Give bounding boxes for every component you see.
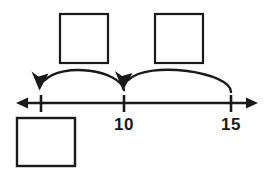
arrow-right-icon <box>246 98 258 109</box>
tick-label-15: 15 <box>221 116 241 133</box>
number-line-figure: 10 15 <box>0 0 272 170</box>
answer-box-bottom-left[interactable] <box>17 118 75 166</box>
arc-right-path <box>129 70 232 92</box>
arc-left-path <box>45 70 125 90</box>
answer-box-top-left[interactable] <box>60 14 108 63</box>
answer-boxes <box>17 14 203 166</box>
number-line-axis <box>16 98 258 109</box>
arc-left-arrowhead-icon <box>32 72 49 91</box>
arrow-left-icon <box>16 98 28 109</box>
jump-arc-right <box>115 70 231 92</box>
jump-arc-left <box>32 70 125 90</box>
figure-canvas <box>0 0 272 170</box>
answer-box-top-right[interactable] <box>155 14 203 63</box>
tick-label-10: 10 <box>114 116 134 133</box>
